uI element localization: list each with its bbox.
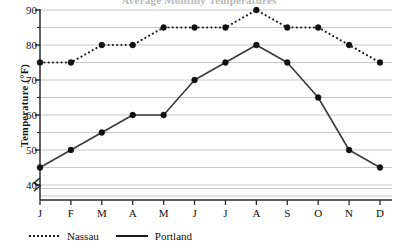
- data-point-nassau-A-7: [253, 7, 259, 13]
- y-tick-label: 50: [15, 145, 37, 156]
- series-line-nassau: [40, 10, 380, 63]
- data-point-portland-N-10: [346, 147, 352, 153]
- data-point-portland-S-8: [284, 60, 290, 66]
- x-tick-label-m-4: M: [154, 207, 174, 219]
- data-point-portland-F-1: [68, 147, 74, 153]
- temperature-line-chart: Average Monthly Temperatures Temperature…: [0, 0, 398, 246]
- data-point-portland-J-5: [192, 77, 198, 83]
- legend-item-portland[interactable]: Portland: [116, 230, 192, 242]
- y-tick-label: 70: [15, 75, 37, 86]
- y-tick-label: 40: [15, 180, 37, 191]
- chart-title-text: Average Monthly Temperatures: [122, 0, 277, 6]
- data-point-nassau-D-11: [377, 60, 383, 66]
- data-point-portland-A-3: [130, 112, 136, 118]
- x-tick-label-d-11: D: [370, 207, 390, 219]
- x-tick-label-j-5: J: [185, 207, 205, 219]
- x-tick-label-m-2: M: [92, 207, 112, 219]
- data-point-nassau-M-2: [99, 42, 105, 48]
- solid-line-swatch-icon: [116, 232, 148, 240]
- y-tick-label: 90: [15, 5, 37, 16]
- x-tick-label-o-9: O: [308, 207, 328, 219]
- legend-label-nassau: Nassau: [67, 230, 99, 242]
- data-point-nassau-S-8: [284, 25, 290, 31]
- legend-label-portland: Portland: [155, 230, 192, 242]
- data-point-portland-M-4: [161, 112, 167, 118]
- data-point-nassau-J-5: [192, 25, 198, 31]
- data-point-nassau-J-0: [37, 60, 43, 66]
- series-nassau: [37, 7, 383, 65]
- data-point-portland-M-2: [99, 130, 105, 136]
- y-tick-label: 80: [15, 40, 37, 51]
- x-tick-label-f-1: F: [61, 207, 81, 219]
- chart-title-cutoff: Average Monthly Temperatures: [0, 0, 398, 7]
- data-point-nassau-F-1: [68, 60, 74, 66]
- x-tick-label-j-0: J: [30, 207, 50, 219]
- series-line-portland: [40, 45, 380, 168]
- x-tick-label-a-7: A: [246, 207, 266, 219]
- data-point-portland-A-7: [253, 42, 259, 48]
- dotted-line-swatch-icon: [28, 232, 60, 240]
- data-point-portland-J-0: [37, 165, 43, 171]
- data-point-nassau-J-6: [223, 25, 229, 31]
- series-portland: [37, 42, 383, 170]
- y-tick-label: 60: [15, 110, 37, 121]
- data-point-nassau-O-9: [315, 25, 321, 31]
- data-point-portland-J-6: [223, 60, 229, 66]
- x-tick-label-n-10: N: [339, 207, 359, 219]
- x-tick-label-s-8: S: [277, 207, 297, 219]
- legend-item-nassau[interactable]: Nassau: [28, 230, 99, 242]
- x-tick-label-j-6: J: [215, 207, 235, 219]
- data-point-nassau-N-10: [346, 42, 352, 48]
- data-point-portland-D-11: [377, 165, 383, 171]
- data-point-nassau-A-3: [130, 42, 136, 48]
- data-point-portland-O-9: [315, 95, 321, 101]
- gridlines: [40, 10, 392, 196]
- data-point-nassau-M-4: [161, 25, 167, 31]
- x-tick-label-a-3: A: [123, 207, 143, 219]
- chart-legend: Nassau Portland: [28, 228, 192, 244]
- axes: [40, 9, 392, 200]
